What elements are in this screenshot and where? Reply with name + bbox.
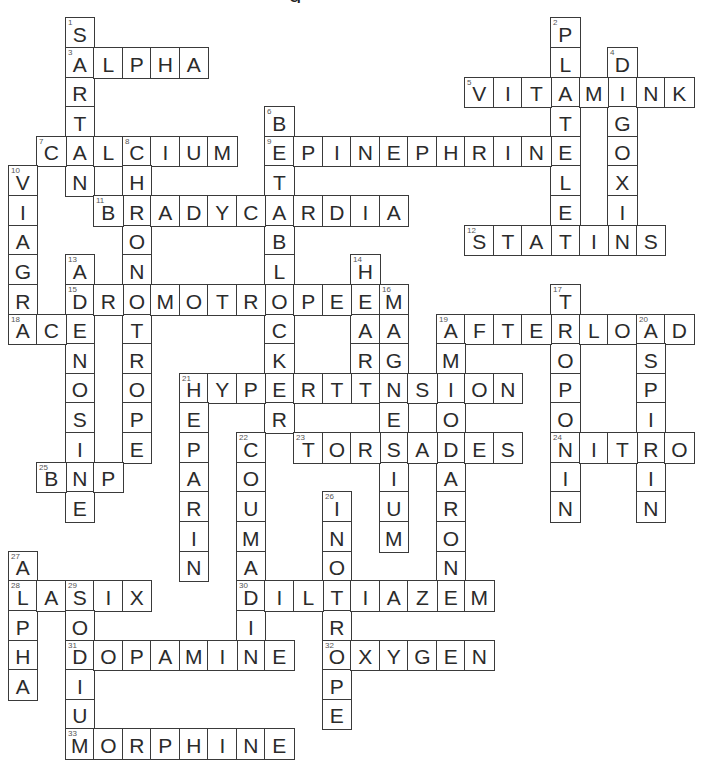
crossword-cell[interactable]: M [236,521,266,553]
crossword-cell[interactable]: A [150,640,181,671]
crossword-cell[interactable]: E [322,699,352,730]
crossword-cell[interactable]: C [264,314,295,345]
crossword-cell[interactable]: 2P [550,17,581,49]
crossword-cell[interactable]: 23T [293,432,324,464]
crossword-cell[interactable]: U [179,136,209,167]
crossword-cell[interactable]: O [179,284,209,316]
crossword-cell[interactable]: 9E [264,136,295,167]
crossword-cell[interactable]: 12S [464,225,495,256]
crossword-cell[interactable]: A [179,462,209,493]
crossword-cell[interactable]: R [122,195,152,227]
crossword-cell[interactable]: 28L [8,580,38,612]
crossword-cell[interactable]: N [464,640,495,671]
crossword-cell[interactable]: I [65,669,95,701]
crossword-cell[interactable]: D [322,195,352,227]
crossword-cell[interactable]: O [65,373,95,404]
crossword-cell[interactable]: 20A [636,314,666,345]
crossword-cell[interactable]: 18A [8,314,38,345]
crossword-cell[interactable]: I [636,462,666,493]
crossword-cell[interactable]: P [550,373,581,404]
crossword-cell[interactable]: I [350,580,381,612]
crossword-cell[interactable]: 16M [379,284,409,316]
crossword-cell[interactable]: T [264,165,295,197]
crossword-cell[interactable]: U [236,491,266,523]
crossword-cell[interactable]: A [407,432,438,464]
crossword-cell[interactable]: A [350,314,381,345]
crossword-cell[interactable]: 24N [550,432,581,464]
crossword-cell[interactable]: F [464,314,495,345]
crossword-cell[interactable]: S [636,343,666,375]
crossword-cell[interactable]: O [550,402,581,434]
crossword-cell[interactable]: U [379,491,409,523]
crossword-cell[interactable]: P [322,669,352,701]
crossword-cell[interactable]: N [521,136,552,167]
crossword-cell[interactable]: I [493,77,523,108]
crossword-cell[interactable]: T [607,432,638,464]
crossword-cell[interactable]: R [8,284,38,316]
crossword-cell[interactable]: E [379,136,409,167]
crossword-cell[interactable]: O [65,610,95,642]
crossword-cell[interactable]: A [8,669,38,701]
crossword-cell[interactable]: I [65,432,95,464]
crossword-cell[interactable]: I [350,195,381,227]
crossword-cell[interactable]: 26I [322,491,352,523]
crossword-cell[interactable]: 11B [93,195,124,227]
crossword-cell[interactable]: P [293,136,324,167]
crossword-cell[interactable]: Y [379,640,409,671]
crossword-cell[interactable]: 22C [236,432,266,464]
crossword-cell[interactable]: O [550,343,581,375]
crossword-cell[interactable]: 17T [550,284,581,316]
crossword-cell[interactable]: S [407,373,438,404]
crossword-cell[interactable]: P [636,373,666,404]
crossword-cell[interactable]: 8C [122,136,152,167]
crossword-cell[interactable]: Z [407,580,438,612]
crossword-cell[interactable]: 3A [65,47,95,79]
crossword-cell[interactable]: 33M [65,728,95,760]
crossword-cell[interactable]: A [436,462,466,493]
crossword-cell[interactable]: P [93,462,124,493]
crossword-cell[interactable]: L [579,314,609,345]
crossword-cell[interactable]: T [550,106,581,138]
crossword-cell[interactable]: 30D [236,580,266,612]
crossword-cell[interactable]: E [350,284,381,316]
crossword-cell[interactable]: O [607,136,638,167]
crossword-cell[interactable]: E [322,284,352,316]
crossword-cell[interactable]: E [464,432,495,464]
crossword-cell[interactable]: E [436,640,466,671]
crossword-cell[interactable]: A [65,136,95,167]
crossword-cell[interactable]: G [379,343,409,375]
crossword-cell[interactable]: A [264,195,295,227]
crossword-cell[interactable]: N [65,462,95,493]
crossword-cell[interactable]: E [550,195,581,227]
crossword-cell[interactable]: 1S [65,17,95,49]
crossword-cell[interactable]: O [436,521,466,553]
crossword-cell[interactable]: C [236,195,266,227]
crossword-cell[interactable]: T [122,314,152,345]
crossword-cell[interactable]: I [550,462,581,493]
crossword-cell[interactable]: K [664,77,695,108]
crossword-cell[interactable]: S [636,225,666,256]
crossword-cell[interactable]: Y [207,373,238,404]
crossword-cell[interactable]: S [65,402,95,434]
crossword-cell[interactable]: S [379,432,409,464]
crossword-cell[interactable]: A [379,580,409,612]
crossword-cell[interactable]: O [436,402,466,434]
crossword-cell[interactable]: T [322,580,352,612]
crossword-cell[interactable]: X [607,165,638,197]
crossword-cell[interactable]: T [493,314,523,345]
crossword-cell[interactable]: L [550,47,581,79]
crossword-cell[interactable]: 31D [65,640,95,671]
crossword-cell[interactable]: A [36,580,67,612]
crossword-cell[interactable]: I [607,195,638,227]
crossword-cell[interactable]: 19A [436,314,466,345]
crossword-cell[interactable]: I [207,640,238,671]
crossword-cell[interactable]: P [122,47,152,79]
crossword-cell[interactable]: T [322,373,352,404]
crossword-cell[interactable]: L [264,254,295,286]
crossword-cell[interactable]: X [122,580,152,612]
crossword-cell[interactable]: E [122,432,152,464]
crossword-cell[interactable]: N [322,521,352,553]
crossword-cell[interactable]: P [122,402,152,434]
crossword-cell[interactable]: X [350,640,381,671]
crossword-cell[interactable]: R [65,77,95,108]
